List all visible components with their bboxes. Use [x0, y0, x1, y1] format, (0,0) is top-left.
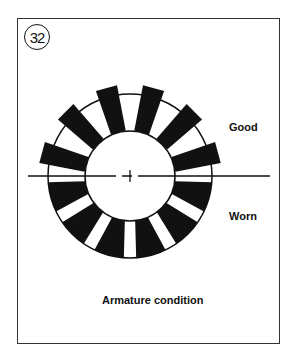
good-label: Good	[229, 121, 258, 133]
armature-diagram	[0, 0, 293, 360]
figure-caption: Armature condition	[102, 294, 203, 306]
worn-label: Worn	[229, 210, 257, 222]
